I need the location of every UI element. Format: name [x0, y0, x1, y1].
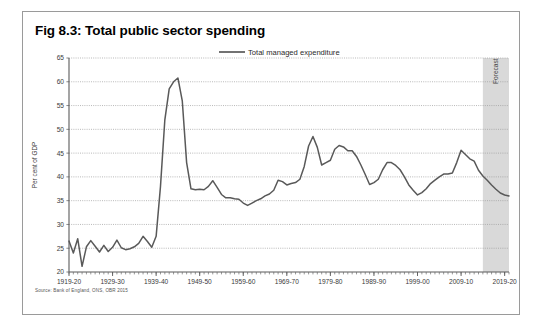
x-axis-tick-label: 1989-90 [362, 278, 387, 285]
y-axis-tick-label: 55 [57, 102, 65, 109]
y-axis-tick-label: 60 [57, 78, 65, 85]
x-axis-tick-label: 1919-20 [57, 278, 82, 285]
source-note: Source: Bank of England, ONS, OBR 2015 [35, 288, 128, 293]
y-axis-tick-label: 25 [57, 245, 65, 252]
y-axis-tick-label: 20 [57, 268, 65, 275]
y-axis-tick-label: 30 [57, 221, 65, 228]
y-axis-tick-label: 35 [57, 197, 65, 204]
forecast-band-label: Forecast [492, 58, 499, 84]
x-axis-tick-label: 1979-80 [318, 278, 343, 285]
y-axis-tick-label: 45 [57, 150, 65, 157]
x-axis-tick-label: 1939-40 [144, 278, 169, 285]
chart-canvas: Forecast202530354045505560651919-201929-… [23, 12, 519, 314]
forecast-band [483, 58, 509, 272]
x-axis-tick-label: 1969-70 [275, 278, 300, 285]
y-axis-tick-label: 65 [57, 54, 65, 61]
y-axis-tick-label: 50 [57, 126, 65, 133]
figure-frame: Fig 8.3: Total public sector spending Fo… [22, 11, 520, 315]
data-line-total-managed-expenditure [69, 78, 509, 266]
y-axis-title: Per cent of GDP [31, 142, 38, 189]
x-axis-tick-label: 1929-30 [100, 278, 125, 285]
x-axis-tick-label: 2009-10 [449, 278, 474, 285]
y-axis-tick-label: 40 [57, 173, 65, 180]
x-axis-tick-label: 1949-50 [188, 278, 213, 285]
x-axis-tick-label: 1959-60 [231, 278, 256, 285]
x-axis-tick-label: 1999-00 [405, 278, 430, 285]
x-axis-tick-label: 2019-20 [493, 278, 518, 285]
legend-label: Total managed expenditure [248, 48, 340, 57]
